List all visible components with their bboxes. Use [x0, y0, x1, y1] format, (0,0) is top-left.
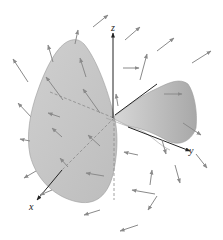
x-axis-label: x: [28, 201, 34, 212]
diagram-canvas: z y x: [0, 0, 223, 240]
y-axis-label: y: [188, 145, 194, 156]
z-axis-label: z: [110, 22, 115, 33]
saddle-surface: [28, 40, 196, 203]
vector-field-diagram: z y x: [0, 0, 223, 240]
